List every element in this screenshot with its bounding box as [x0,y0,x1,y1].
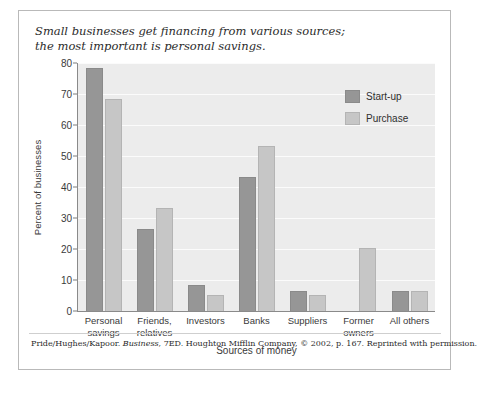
y-axis-tick-label: 40 [61,182,72,193]
x-axis-tick-label: Personalsavings [78,315,129,338]
y-axis-title-text: Percent of businesses [33,139,44,235]
bar-group [231,63,282,311]
bar-purchase[interactable] [309,295,326,312]
x-axis-tick-label: All others [384,315,435,338]
legend-item[interactable]: Purchase [345,112,408,125]
y-axis-tick-label: 0 [66,306,72,317]
x-axis-tick-label: Formerowners [333,315,384,338]
legend-swatch-icon [345,112,360,125]
legend-item-label: Purchase [366,113,408,124]
y-axis-title: Percent of businesses [31,63,45,311]
chart-plot: Percent of businesses 01020304050607080 … [33,63,437,323]
bar-startup[interactable] [290,291,307,311]
bar-startup[interactable] [86,68,103,311]
y-axis-tick-label: 20 [61,244,72,255]
chart-legend: Start-upPurchase [345,90,408,134]
y-axis-tick-label: 50 [61,151,72,162]
bar-purchase[interactable] [105,99,122,311]
x-axis-line [77,311,435,312]
x-axis-tick-label: Suppliers [282,315,333,338]
y-axis-tick-label: 10 [61,275,72,286]
bar-purchase[interactable] [207,295,224,312]
x-axis-tick-label: Friends,relatives [129,315,180,338]
caption-line-2: the most important is personal savings. [35,39,425,54]
x-axis-tick-label: Investors [180,315,231,338]
bar-startup[interactable] [137,229,154,311]
footer-divider [29,333,441,334]
credit-prefix: Pride/Hughes/Kapoor. [31,339,123,348]
figure-caption: Small businesses get financing from vari… [35,24,425,54]
bar-purchase[interactable] [411,291,428,311]
caption-line-1: Small businesses get financing from vari… [35,24,425,39]
bar-purchase[interactable] [258,146,275,311]
bar-startup[interactable] [239,177,256,311]
x-axis-tick-label: Banks [231,315,282,338]
legend-item[interactable]: Start-up [345,90,408,103]
y-axis-tick-label: 60 [61,120,72,131]
bar-group [282,63,333,311]
bar-group [129,63,180,311]
x-axis-ticks: PersonalsavingsFriends,relativesInvestor… [78,315,435,338]
bar-purchase[interactable] [359,248,376,311]
credit-suffix: , 7ED. Houghton Mifflin Company, © 2002,… [159,339,477,348]
y-axis-tick-label: 80 [61,58,72,69]
bar-group [78,63,129,311]
bar-startup[interactable] [188,285,205,311]
y-axis-tick-label: 30 [61,213,72,224]
bar-group [180,63,231,311]
bar-purchase[interactable] [156,208,173,311]
credit-work-title: Business [123,339,159,348]
y-axis-ticks: 01020304050607080 [47,63,77,311]
figure-frame: Small businesses get financing from vari… [18,10,451,370]
legend-swatch-icon [345,90,360,103]
legend-item-label: Start-up [366,91,402,102]
source-credit: Pride/Hughes/Kapoor. Business, 7ED. Houg… [31,339,441,348]
y-axis-tick-label: 70 [61,89,72,100]
bar-startup[interactable] [392,291,409,311]
